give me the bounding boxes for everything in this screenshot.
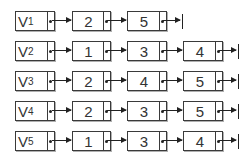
null-terminator-icon: [238, 134, 239, 149]
list-node: 2: [72, 101, 111, 121]
node-value: 4: [128, 72, 160, 90]
node-value: 4: [184, 132, 216, 150]
list-node: 1: [72, 41, 111, 61]
list-row-v2: V2 1 3 4: [0, 41, 250, 63]
pointer-field: [215, 72, 222, 90]
pointer-field: [159, 12, 166, 30]
arrow-icon: [163, 80, 182, 81]
list-node: 3: [127, 101, 167, 121]
node-value: 5: [184, 72, 216, 90]
head-node-v4: V4: [15, 101, 55, 121]
node-value: 5: [184, 102, 216, 120]
head-label: V: [18, 103, 28, 120]
node-value: 5: [128, 12, 160, 30]
null-terminator-icon: [238, 44, 239, 59]
arrow-icon: [52, 20, 71, 21]
node-value: 3: [128, 42, 160, 60]
list-node: 4: [127, 71, 167, 91]
head-subscript: 3: [28, 76, 34, 87]
head-label: V: [18, 73, 28, 90]
list-row-v4: V4 2 3 5: [0, 101, 250, 123]
pointer-field: [103, 42, 110, 60]
pointer-field: [103, 72, 110, 90]
arrow-icon: [52, 110, 71, 111]
list-node: 1: [72, 131, 111, 151]
arrow-icon: [107, 110, 126, 111]
pointer-field: [103, 102, 110, 120]
arrow-icon: [107, 20, 126, 21]
pointer-field: [47, 12, 54, 30]
node-value: 1: [73, 132, 104, 150]
list-row-v5: V5 1 3 4: [0, 131, 250, 153]
node-value: 4: [184, 42, 216, 60]
pointer-field: [215, 102, 222, 120]
list-node: 4: [183, 131, 223, 151]
pointer-field: [159, 72, 166, 90]
head-node-v2: V2: [15, 41, 55, 61]
list-row-v3: V3 2 4 5: [0, 71, 250, 93]
arrow-icon: [107, 50, 126, 51]
arrow-icon: [163, 50, 182, 51]
head-subscript: 1: [28, 16, 34, 27]
head-node-v3: V3: [15, 71, 55, 91]
arrow-icon: [107, 80, 126, 81]
head-label: V: [18, 133, 28, 150]
pointer-field: [103, 12, 110, 30]
list-row-v1: V1 2 5: [0, 11, 250, 33]
pointer-field: [47, 132, 54, 150]
node-value: 1: [73, 42, 104, 60]
list-node: 5: [183, 101, 223, 121]
head-subscript: 2: [28, 46, 34, 57]
pointer-field: [215, 132, 222, 150]
head-label: V: [18, 43, 28, 60]
head-node-v5: V5: [15, 131, 55, 151]
node-value: 3: [128, 132, 160, 150]
head-subscript: 4: [28, 106, 34, 117]
pointer-field: [159, 102, 166, 120]
arrow-icon: [163, 110, 182, 111]
node-value: 3: [128, 102, 160, 120]
pointer-field: [159, 42, 166, 60]
arrow-icon: [219, 50, 236, 51]
list-node: 4: [183, 41, 223, 61]
list-node: 5: [183, 71, 223, 91]
pointer-field: [47, 72, 54, 90]
arrow-icon: [163, 20, 180, 21]
head-subscript: 5: [28, 136, 34, 147]
pointer-field: [103, 132, 110, 150]
arrow-icon: [219, 110, 236, 111]
arrow-icon: [219, 80, 236, 81]
list-node: 3: [127, 41, 167, 61]
arrow-icon: [52, 140, 71, 141]
list-node: 5: [127, 11, 167, 31]
pointer-field: [159, 132, 166, 150]
list-node: 2: [72, 71, 111, 91]
arrow-icon: [52, 50, 71, 51]
pointer-field: [215, 42, 222, 60]
head-label: V: [18, 13, 28, 30]
head-node-v1: V1: [15, 11, 55, 31]
arrow-icon: [219, 140, 236, 141]
list-node: 3: [127, 131, 167, 151]
arrow-icon: [163, 140, 182, 141]
node-value: 2: [73, 102, 104, 120]
node-value: 2: [73, 12, 104, 30]
null-terminator-icon: [238, 74, 239, 89]
arrow-icon: [107, 140, 126, 141]
node-value: 2: [73, 72, 104, 90]
pointer-field: [47, 42, 54, 60]
list-node: 2: [72, 11, 111, 31]
null-terminator-icon: [182, 14, 183, 29]
null-terminator-icon: [238, 104, 239, 119]
arrow-icon: [52, 80, 71, 81]
pointer-field: [47, 102, 54, 120]
